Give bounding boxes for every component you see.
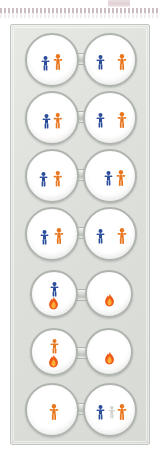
bubble-pair-row[interactable]	[13, 31, 149, 89]
bubble-left-3[interactable]	[25, 149, 79, 203]
person-orange-icon	[117, 228, 127, 245]
person-orange-icon	[117, 404, 127, 421]
bubble-pair-row[interactable]	[13, 381, 149, 439]
bubble-right-1[interactable]	[83, 33, 137, 87]
bubble-left-4[interactable]	[25, 207, 79, 261]
flame-icon	[104, 294, 115, 307]
bubble-right-6[interactable]	[85, 328, 133, 376]
person-blue-icon	[96, 55, 105, 70]
flame-icon	[48, 297, 59, 310]
person-blue-icon	[39, 172, 48, 187]
person-orange-icon	[53, 171, 63, 187]
person-blue-icon	[96, 113, 105, 128]
scenario-panel	[10, 24, 150, 445]
person-orange-icon	[117, 54, 127, 71]
person-blue-icon	[96, 405, 105, 420]
person-blue-icon	[42, 114, 51, 129]
person-blue-icon	[41, 56, 50, 71]
person-orange-icon	[54, 228, 64, 245]
person-orange-icon	[117, 112, 127, 129]
bubble-pair-row[interactable]	[13, 265, 149, 323]
person-orange-icon	[53, 113, 63, 129]
bubble-left-1[interactable]	[25, 33, 79, 87]
bubble-left-6[interactable]	[30, 328, 78, 376]
bubble-pair-row[interactable]	[13, 147, 149, 205]
person-orange-icon	[49, 404, 59, 421]
bubble-right-7[interactable]	[83, 383, 137, 437]
person-faded-icon	[108, 406, 116, 419]
screenshot-root	[0, 0, 160, 471]
person-blue-icon	[50, 282, 59, 297]
bubble-left-2[interactable]	[25, 91, 79, 145]
bubble-right-2[interactable]	[83, 91, 137, 145]
bubble-left-7[interactable]	[25, 383, 79, 437]
bubble-pair-row[interactable]	[13, 89, 149, 147]
flame-icon	[104, 352, 115, 365]
bubble-right-5[interactable]	[85, 270, 133, 318]
bubble-pair-row[interactable]	[13, 323, 149, 381]
person-orange-icon	[116, 170, 126, 187]
person-orange-icon	[50, 339, 59, 354]
bubble-left-5[interactable]	[30, 270, 78, 318]
bubble-right-3[interactable]	[83, 149, 137, 203]
person-orange-icon	[53, 54, 63, 71]
person-blue-icon	[104, 171, 113, 186]
bubble-right-4[interactable]	[83, 207, 137, 261]
faded-highlight-mark	[108, 0, 130, 7]
flame-icon	[48, 355, 59, 368]
dotted-rule-secondary	[0, 13, 160, 18]
bubble-pair-row[interactable]	[13, 205, 149, 263]
person-blue-icon	[96, 229, 105, 244]
person-blue-icon	[40, 230, 49, 245]
